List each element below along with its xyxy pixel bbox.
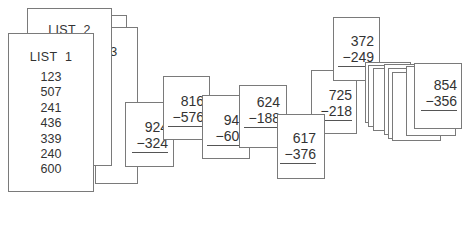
minuend: 816 [168,93,204,109]
list-item: 123 [9,70,93,85]
list-item: 339 [9,132,93,147]
minuend: 372 [338,33,374,49]
list-item: 240 [9,147,93,162]
list-item: 600 [9,162,93,177]
minuend: 624 [244,94,280,110]
list-item: 507 [9,85,93,100]
list1-items: 123 507 241 436 339 240 600 [9,70,93,178]
list-card-1: LIST 1 123 507 241 436 339 240 600 [8,33,94,192]
minuend: 617 [280,130,316,146]
minuend: 725 [316,87,352,103]
subtraction-problem: 624 −188 [244,94,280,128]
subtrahend: −376 [280,146,316,164]
subtrahend: −188 [244,110,280,128]
subtrahend: −356 [421,93,457,111]
subtraction-problem: 816 −576 [168,93,204,127]
subtrahend: −576 [168,109,204,127]
list1-title: LIST 1 [9,50,93,64]
list-item: 436 [9,116,93,131]
subtraction-problem: 854 −356 [421,77,457,111]
minuend: 854 [421,77,457,93]
problem-card-617: 617 −376 [277,114,325,179]
problem-card-854: 854 −356 [414,63,462,129]
subtraction-problem: 617 −376 [280,130,316,164]
list-item: 241 [9,101,93,116]
